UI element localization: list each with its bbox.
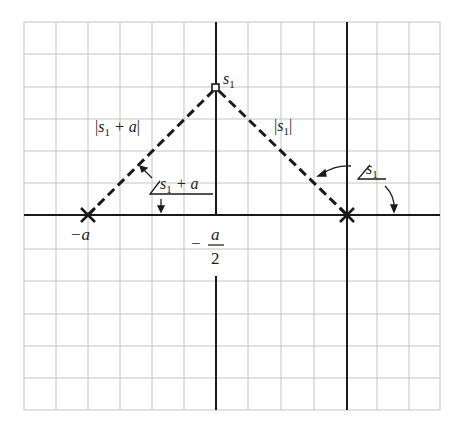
neg-a-label: −a	[70, 225, 90, 244]
magnitude-s1-label: |s1|	[274, 117, 292, 137]
arrowhead-real-axis-right-icon	[391, 205, 397, 212]
neg-a-over-2-minus: −	[191, 234, 201, 253]
test-point-square-icon	[212, 84, 219, 91]
arrowhead-real-axis-left-icon	[158, 206, 164, 212]
magnitude-s1-plus-a-label: |s1 + a|	[95, 118, 140, 138]
neg-a-over-2-numerator: a	[211, 225, 220, 244]
neg-a-over-2-denominator: 2	[211, 249, 220, 268]
root-locus-diagram: s1 |s1 + a| |s1| s1 + a s1 −a − a 2	[0, 0, 462, 428]
vector-s1	[219, 91, 347, 215]
vector-s1-plus-a	[88, 91, 213, 215]
neg-a-over-2-label: − a 2	[191, 225, 224, 268]
angle-s1-plus-a-label: s1 + a	[160, 175, 199, 195]
angle-s1-label: s1	[366, 160, 378, 180]
arrowhead-right-vector-icon	[318, 170, 326, 176]
vectors	[88, 91, 347, 215]
